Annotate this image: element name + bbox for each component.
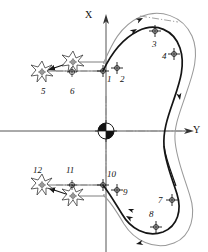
tool-move-arrows <box>48 62 72 196</box>
burst-marker-11 <box>62 185 84 206</box>
crosshair-9 <box>111 184 123 196</box>
point-label-2: 2 <box>120 75 125 84</box>
crosshair-2 <box>111 62 123 74</box>
point-label-12: 12 <box>33 166 42 175</box>
point-label-4: 4 <box>162 52 167 61</box>
axis-label-x: X <box>85 10 92 20</box>
origin-quadrant-marker <box>95 120 117 142</box>
point-label-9: 9 <box>123 188 128 197</box>
point-label-7: 7 <box>158 196 163 205</box>
burst-marker-6 <box>62 51 84 72</box>
burst-marker-12 <box>31 174 53 195</box>
crosshair-11 <box>67 180 77 190</box>
flow-arrow-lower-offset <box>127 207 134 213</box>
diagram-svg <box>0 0 208 252</box>
flow-arrow-right-down <box>176 93 182 101</box>
crosshair-10 <box>97 179 109 191</box>
crosshair-8 <box>150 221 162 233</box>
inner-detail-arcs <box>164 146 176 186</box>
lead-in-lines <box>42 62 104 196</box>
point-label-11: 11 <box>66 166 74 175</box>
point-label-10: 10 <box>107 170 116 179</box>
crosshair-4 <box>168 48 180 60</box>
point-label-1: 1 <box>107 75 112 84</box>
point-label-5: 5 <box>41 87 46 96</box>
axis-label-y: Y <box>193 125 200 135</box>
diagram-canvas: X Y 1 2 3 4 5 6 7 8 9 10 11 12 <box>0 0 208 252</box>
point-label-8: 8 <box>149 210 154 219</box>
crosshair-7 <box>166 194 178 206</box>
point-label-6: 6 <box>70 87 75 96</box>
burst-marker-5 <box>31 61 53 82</box>
point-label-3: 3 <box>152 40 157 49</box>
